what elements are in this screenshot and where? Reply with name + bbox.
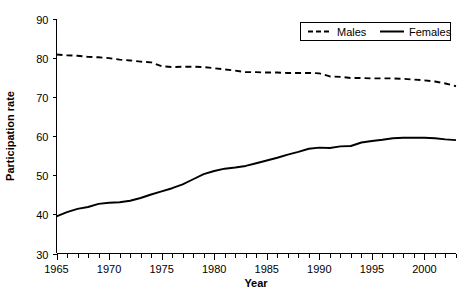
- x-tick-label-1970: 1970: [97, 263, 121, 275]
- y-tick-label-80: 80: [36, 53, 48, 65]
- legend-label-males: Males: [337, 26, 367, 38]
- y-tick-label-70: 70: [36, 92, 48, 104]
- x-axis-title: Year: [244, 277, 268, 289]
- x-tick-label-1995: 1995: [360, 263, 384, 275]
- x-tick-label-1975: 1975: [149, 263, 173, 275]
- y-tick-label-90: 90: [36, 14, 48, 26]
- legend-label-females: Females: [409, 26, 452, 38]
- chart-container: 30405060708090 1965197019751980198519901…: [0, 0, 467, 302]
- participation-rate-line-chart: 30405060708090 1965197019751980198519901…: [0, 0, 467, 302]
- y-tick-label-40: 40: [36, 209, 48, 221]
- x-tick-label-1980: 1980: [202, 263, 226, 275]
- x-tick-label-1985: 1985: [255, 263, 279, 275]
- x-tick-label-2000: 2000: [412, 263, 436, 275]
- x-tick-label-1965: 1965: [44, 263, 68, 275]
- y-tick-label-30: 30: [36, 249, 48, 261]
- y-tick-label-50: 50: [36, 170, 48, 182]
- y-axis-title: Participation rate: [4, 91, 16, 181]
- plot-background: [0, 0, 467, 302]
- x-tick-label-1990: 1990: [307, 263, 331, 275]
- chart-legend: Males Females: [301, 23, 452, 41]
- y-tick-label-60: 60: [36, 131, 48, 143]
